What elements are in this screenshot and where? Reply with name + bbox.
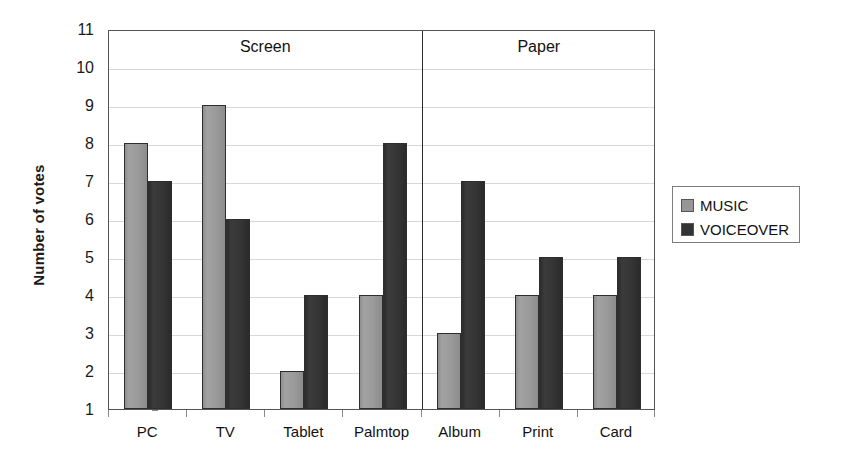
y-axis-title: Number of votes: [30, 140, 52, 310]
y-tick-label-1: 1: [85, 402, 94, 418]
x-tick-label-card: Card: [577, 422, 655, 442]
bar-tablet-music: [280, 371, 304, 409]
x-tick-label-pc: PC: [108, 422, 186, 442]
y-tick-label-3: 3: [85, 326, 94, 342]
x-tick-mark-4: [421, 410, 422, 417]
x-tick-label-tablet: Tablet: [264, 422, 342, 442]
music-swatch-icon: [681, 199, 694, 212]
y-tick-label-10: 10: [76, 60, 94, 76]
y-axis-tick-labels: 1110987654321: [52, 0, 94, 469]
legend-item-music: MUSIC: [681, 193, 799, 217]
y-tick-label-4: 4: [85, 288, 94, 304]
chart-legend: MUSIC VOICEOVER: [672, 186, 800, 243]
x-tick-label-print: Print: [499, 422, 577, 442]
bar-album-music: [437, 333, 461, 409]
y-tick-label-7: 7: [85, 174, 94, 190]
legend-item-voiceover: VOICEOVER: [681, 217, 799, 241]
x-tick-label-tv: TV: [186, 422, 264, 442]
plot-area: ScreenPaper: [108, 30, 655, 410]
legend-label-voiceover: VOICEOVER: [700, 222, 789, 237]
y-tick-label-11: 11: [77, 22, 94, 38]
x-tick-mark-1: [186, 410, 187, 417]
legend-label-music: MUSIC: [700, 198, 748, 213]
x-axis-tick-labels: PCTVTabletPalmtopAlbumPrintCard: [108, 422, 655, 448]
bar-tv-music: [202, 105, 226, 409]
y-tick-label-5: 5: [85, 250, 94, 266]
x-tick-mark-0: [108, 410, 109, 417]
bars-layer: [109, 31, 654, 409]
x-tick-label-palmtop: Palmtop: [342, 422, 420, 442]
bar-pc-voiceover: [148, 181, 172, 409]
bar-chart: Number of votes 1110987654321 ScreenPape…: [0, 0, 857, 469]
bar-palmtop-music: [359, 295, 383, 409]
bar-print-voiceover: [539, 257, 563, 409]
bar-tv-voiceover: [226, 219, 250, 409]
bar-card-music: [593, 295, 617, 409]
bar-card-voiceover: [617, 257, 641, 409]
x-tick-label-album: Album: [421, 422, 499, 442]
bar-pc-music: [124, 143, 148, 409]
y-tick-label-8: 8: [85, 136, 94, 152]
x-tick-mark-6: [577, 410, 578, 417]
x-tick-mark-2: [264, 410, 265, 417]
x-tick-mark-3: [342, 410, 343, 417]
y-tick-label-9: 9: [85, 98, 94, 114]
x-tick-mark-7: [654, 410, 655, 417]
bar-album-voiceover: [461, 181, 485, 409]
bar-tablet-voiceover: [304, 295, 328, 409]
y-tick-label-2: 2: [85, 364, 94, 380]
bar-palmtop-voiceover: [383, 143, 407, 409]
bar-print-music: [515, 295, 539, 409]
x-tick-mark-5: [499, 410, 500, 417]
voiceover-swatch-icon: [681, 223, 694, 236]
x-axis-tick-marks: [108, 410, 655, 418]
y-tick-label-6: 6: [85, 212, 94, 228]
